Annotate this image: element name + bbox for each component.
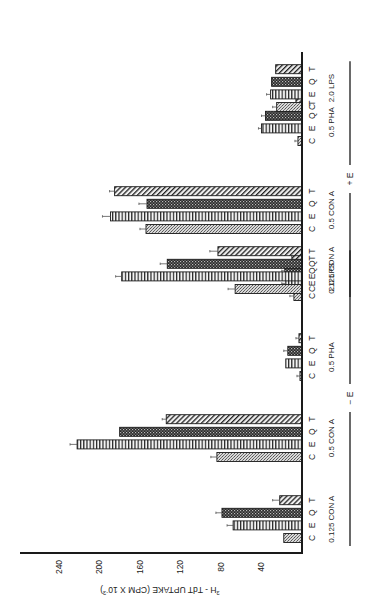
group-label: 0.5 CON A: [328, 190, 337, 229]
labels-layer: CEQT0.125 CON ACEQT0.5 CON ACEQT0.5 PHAC…: [307, 61, 355, 546]
tick-label: 40: [256, 562, 266, 572]
condition-label: − E: [345, 391, 355, 404]
series-letter: Q: [307, 428, 317, 435]
bar-Q: [167, 259, 302, 268]
bars-layer: [70, 65, 302, 543]
bar-chart: 40801201602002403H - TdT UPTAKE (CPM X 1…: [0, 0, 367, 615]
condition-label: + E: [345, 172, 355, 185]
group-label: 0.125 CON A: [328, 495, 337, 543]
tick-label: 80: [216, 562, 226, 572]
series-letter: Q: [307, 509, 317, 516]
series-letter: E: [307, 213, 317, 219]
bar-E: [77, 440, 302, 449]
series-letter: T: [307, 189, 317, 194]
bar-E: [122, 272, 302, 281]
series-letter: Q: [307, 200, 317, 207]
series-letter: E: [307, 441, 317, 447]
series-letter: C: [307, 138, 317, 144]
series-letter: C: [307, 535, 317, 541]
series-letter: Q: [307, 260, 317, 267]
bar-C: [217, 453, 302, 462]
bar-group: [102, 187, 302, 234]
group-label: 0.125 CON A: [328, 246, 337, 294]
series-letter: E: [307, 273, 317, 279]
series-letter: Q: [307, 347, 317, 354]
tick-label: 200: [94, 560, 104, 574]
bar-T: [276, 65, 302, 74]
bar-Q: [120, 427, 302, 436]
bar-group: [70, 415, 302, 462]
tick-label: 240: [54, 560, 64, 574]
series-letter: Q: [307, 78, 317, 85]
series-letter: C: [307, 226, 317, 232]
bar-Q: [288, 346, 302, 355]
series-letter: Q: [307, 112, 317, 119]
series-letter: T: [307, 498, 317, 503]
series-letter: E: [307, 125, 317, 131]
bar-group: [284, 334, 302, 381]
group-label: 0.5 PHA: [328, 107, 337, 137]
bar-E: [261, 124, 302, 133]
bar-C: [277, 103, 302, 112]
bar-group: [267, 65, 302, 112]
series-letter: E: [307, 522, 317, 528]
series-letter: E: [307, 91, 317, 97]
tick-label: 120: [175, 560, 185, 574]
group-label: 0.5 PHA: [328, 342, 337, 372]
bar-Q: [147, 199, 302, 208]
group-label: 2.0 LPS: [328, 74, 337, 102]
bar-E: [271, 90, 302, 99]
bar-T: [218, 247, 302, 256]
bar-T: [166, 415, 302, 424]
group-label: 0.5 CON A: [328, 418, 337, 457]
series-letter: T: [307, 256, 317, 261]
tick-label: 160: [135, 560, 145, 574]
bar-group: [116, 247, 302, 294]
bar-T: [280, 496, 302, 505]
series-letter: T: [307, 336, 317, 341]
series-letter: C: [307, 454, 317, 460]
bar-T: [115, 187, 302, 196]
series-letter: C: [307, 373, 317, 379]
series-letter: C: [307, 104, 317, 110]
bar-E: [233, 521, 302, 530]
bar-C: [235, 285, 302, 294]
value-axis-title: 3H - TdT UPTAKE (CPM X 10-3): [100, 585, 220, 596]
series-letter: T: [307, 67, 317, 72]
series-letter: E: [307, 280, 317, 286]
series-letter: C: [307, 286, 317, 292]
series-letter: T: [307, 249, 317, 254]
series-letter: Q: [307, 267, 317, 274]
bar-group: [216, 496, 302, 543]
series-letter: T: [307, 417, 317, 422]
bar-Q: [266, 111, 302, 120]
series-letter: C: [307, 293, 317, 299]
bar-E: [286, 359, 302, 368]
bar-Q: [272, 77, 302, 86]
series-letter: E: [307, 360, 317, 366]
bar-C: [146, 225, 302, 234]
bar-C: [284, 534, 302, 543]
bar-E: [111, 212, 302, 221]
bar-Q: [222, 508, 302, 517]
